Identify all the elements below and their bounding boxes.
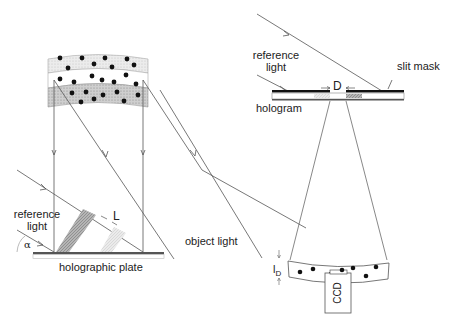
slit-mask-right (346, 90, 404, 93)
holographic-plate (33, 252, 164, 255)
ccd-label: CCD (332, 278, 344, 308)
depth-subscript: D (275, 269, 281, 278)
fringe-dark (56, 209, 96, 252)
reference-light-label-right: reference light (251, 49, 301, 73)
diagram-canvas: reference light α L holographic plate ob… (0, 0, 452, 329)
label-line-2: light (251, 61, 301, 73)
hologram-plate (272, 93, 404, 99)
slit-mask-left (272, 90, 330, 93)
angle-alpha-label: α (24, 239, 31, 251)
label-line-1: reference (12, 208, 62, 220)
depth-label: lD (273, 263, 281, 280)
object-light-label: object light (185, 235, 238, 247)
label-line-1: reference (251, 49, 301, 61)
slit-width-label: D (333, 80, 342, 92)
fringe-light (100, 227, 126, 252)
slit-mask-label: slit mask (397, 60, 440, 72)
object-volume (48, 55, 148, 108)
diagram-drawing (0, 0, 452, 329)
holographic-plate-label: holographic plate (59, 261, 143, 273)
object-light-ray (160, 90, 262, 258)
fringe-spacing-label: L (113, 210, 120, 222)
reference-light-label-left: reference light (12, 208, 62, 232)
reconstruction-cone (290, 101, 387, 260)
hologram-label: hologram (256, 102, 302, 114)
label-line-2: light (12, 220, 62, 232)
